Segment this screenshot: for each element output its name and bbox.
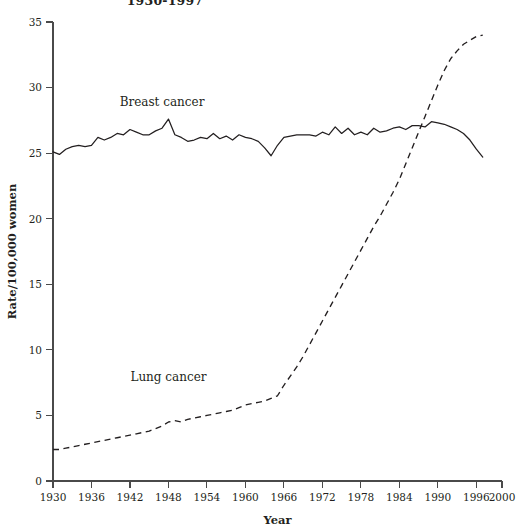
x-tick-label-1948: 1948 — [155, 491, 182, 503]
x-tick-label-1966: 1966 — [271, 491, 298, 503]
y-axis: 05101520253035 — [29, 16, 53, 487]
series-layer — [53, 35, 483, 449]
x-tick-label-1954: 1954 — [194, 491, 221, 503]
x-tick-label-1978: 1978 — [348, 491, 375, 503]
y-tick-label-20: 20 — [29, 213, 42, 225]
figure-container: 1930-1997 05101520253035 193019361942194… — [0, 0, 522, 531]
y-tick-label-15: 15 — [29, 278, 42, 290]
y-tick-label-5: 5 — [35, 409, 42, 421]
x-tick-label-1972: 1972 — [309, 491, 336, 503]
y-tick-label-25: 25 — [29, 147, 42, 159]
x-tick-label-1936: 1936 — [78, 491, 105, 503]
annotation-layer: Breast cancerLung cancer — [120, 95, 207, 384]
x-tick-label-1942: 1942 — [117, 491, 144, 503]
series-line-lung-cancer — [53, 35, 483, 449]
x-tick-label-1990: 1990 — [424, 491, 451, 503]
x-tick-label-1960: 1960 — [232, 491, 259, 503]
x-tick-label-1984: 1984 — [386, 491, 413, 503]
axis-titles: YearRate/100,000 women — [5, 183, 292, 527]
y-tick-label-0: 0 — [35, 475, 42, 487]
x-axis-title: Year — [262, 513, 292, 527]
series-line-breast-cancer — [53, 119, 483, 157]
x-tick-label-1930: 1930 — [40, 491, 67, 503]
series-label-breast-cancer: Breast cancer — [120, 95, 205, 109]
x-tick-label-1996: 1996 — [463, 491, 490, 503]
y-tick-label-30: 30 — [29, 81, 42, 93]
y-axis-title: Rate/100,000 women — [5, 183, 19, 319]
y-tick-label-35: 35 — [29, 16, 42, 28]
x-tick-label-2000: 2000 — [489, 491, 516, 503]
y-tick-label-10: 10 — [29, 344, 42, 356]
line-chart: 05101520253035 1930193619421948195419601… — [0, 0, 522, 531]
x-axis: 1930193619421948195419601966197219781984… — [40, 481, 516, 503]
series-label-lung-cancer: Lung cancer — [130, 370, 206, 384]
